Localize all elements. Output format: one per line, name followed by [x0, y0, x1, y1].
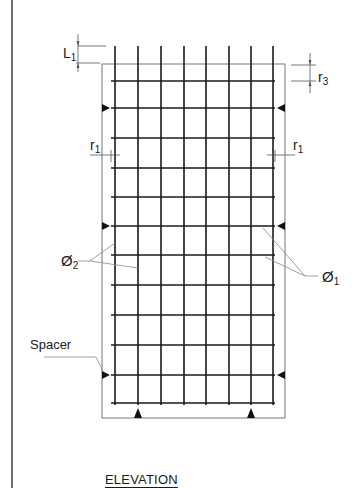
- label-r1-left-sub: 1: [95, 144, 101, 155]
- label-r3: r3: [318, 70, 328, 87]
- spacer-icon: [102, 222, 110, 230]
- label-L1-main: L: [63, 45, 71, 61]
- label-L1-sub: 1: [71, 52, 77, 63]
- bottom-spacers: [134, 408, 255, 418]
- label-phi2: Ø2: [61, 253, 78, 271]
- label-r1-right: r1: [293, 138, 303, 155]
- spacer-icon: [134, 408, 142, 418]
- concrete-outline: [102, 64, 285, 418]
- label-r1-left: r1: [90, 138, 100, 155]
- label-r3-sub: 3: [323, 76, 329, 87]
- leader-phi1: [263, 228, 318, 276]
- spacer-icon: [247, 408, 255, 418]
- dimension-r3: [291, 53, 316, 93]
- dimension-r1-right: [267, 150, 295, 162]
- elevation-drawing: [0, 0, 361, 488]
- leader-spacer: [44, 357, 103, 371]
- spacer-icon: [102, 371, 110, 379]
- spacer-icon: [277, 222, 285, 230]
- label-phi1-main: Ø: [322, 268, 334, 285]
- label-phi1-sub: 1: [334, 276, 340, 287]
- label-phi1: Ø1: [322, 269, 339, 287]
- label-r1-right-sub: 1: [298, 144, 304, 155]
- spacer-icon: [102, 104, 110, 112]
- label-spacer: Spacer: [30, 338, 71, 351]
- spacer-icon: [277, 371, 285, 379]
- label-phi2-sub: 2: [73, 260, 79, 271]
- side-spacers: [102, 104, 285, 379]
- label-phi2-main: Ø: [61, 252, 73, 269]
- label-L1: L1: [63, 46, 76, 63]
- spacer-icon: [277, 104, 285, 112]
- elevation-title: ELEVATION: [105, 472, 178, 487]
